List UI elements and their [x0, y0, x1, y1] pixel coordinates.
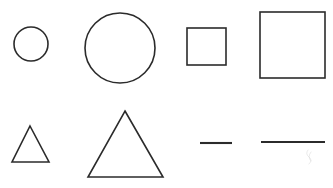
shapes-illustration	[0, 0, 333, 188]
small-square	[187, 28, 226, 65]
small-triangle	[12, 126, 49, 162]
large-square	[260, 12, 325, 78]
row-1-group	[14, 12, 325, 83]
row-2-group	[12, 111, 325, 177]
large-triangle	[88, 111, 163, 177]
large-circle	[85, 13, 155, 83]
shape-canvas: Geometric shapes: circles, squares, tria…	[0, 0, 333, 188]
small-circle	[14, 27, 48, 61]
faint-smudge-icon	[307, 150, 311, 164]
